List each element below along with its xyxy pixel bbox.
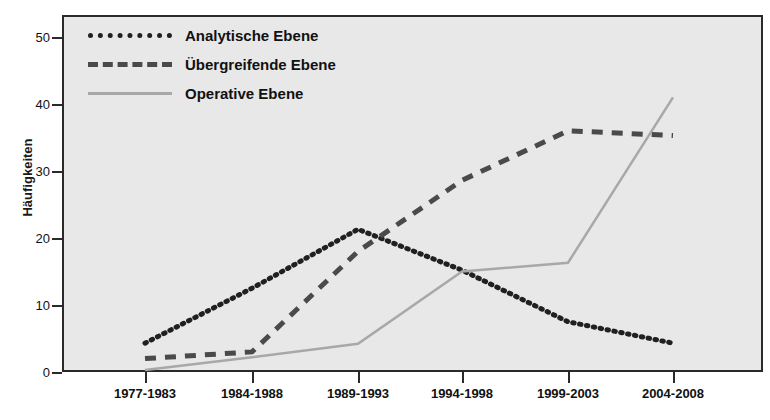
x-tick-6: [673, 372, 675, 383]
x-tick-label-1: 1977-1983: [114, 386, 176, 401]
x-tick-1: [145, 372, 147, 383]
x-tick-label-3: 1989-1993: [327, 386, 389, 401]
dashed-line-swatch-icon: [88, 62, 172, 67]
y-tick-0: [52, 372, 62, 374]
y-tick-label-10: 10: [20, 298, 50, 313]
legend-item-uebergreifende: Übergreifende Ebene: [88, 55, 336, 73]
y-tick-20: [52, 238, 62, 240]
dotted-line-swatch-icon: [88, 33, 172, 38]
legend-label-analytische: Analytische Ebene: [185, 27, 318, 44]
solid-line-swatch-icon: [88, 92, 172, 95]
legend-label-operative: Operative Ebene: [185, 85, 303, 102]
legend: Analytische Ebene Übergreifende Ebene Op…: [88, 26, 336, 102]
y-tick-10: [52, 305, 62, 307]
y-tick-label-50: 50: [20, 30, 50, 45]
x-tick-2: [252, 372, 254, 383]
legend-label-uebergreifende: Übergreifende Ebene: [185, 56, 336, 73]
x-tick-label-2: 1984-1988: [221, 386, 283, 401]
y-tick-50: [52, 37, 62, 39]
x-tick-label-5: 1999-2003: [537, 386, 599, 401]
y-tick-40: [52, 104, 62, 106]
x-tick-4: [462, 372, 464, 383]
legend-item-operative: Operative Ebene: [88, 84, 336, 102]
y-tick-30: [52, 171, 62, 173]
line-chart: Häufigkeiten 50 40 30 20 10 0 A: [0, 0, 770, 420]
x-tick-label-6: 2004-2008: [642, 386, 704, 401]
legend-item-analytische: Analytische Ebene: [88, 26, 336, 44]
y-tick-label-40: 40: [20, 97, 50, 112]
y-tick-label-30: 30: [20, 164, 50, 179]
x-tick-3: [358, 372, 360, 383]
x-tick-5: [568, 372, 570, 383]
y-tick-label-20: 20: [20, 231, 50, 246]
x-tick-label-4: 1994-1998: [431, 386, 493, 401]
y-tick-label-0: 0: [20, 365, 50, 380]
